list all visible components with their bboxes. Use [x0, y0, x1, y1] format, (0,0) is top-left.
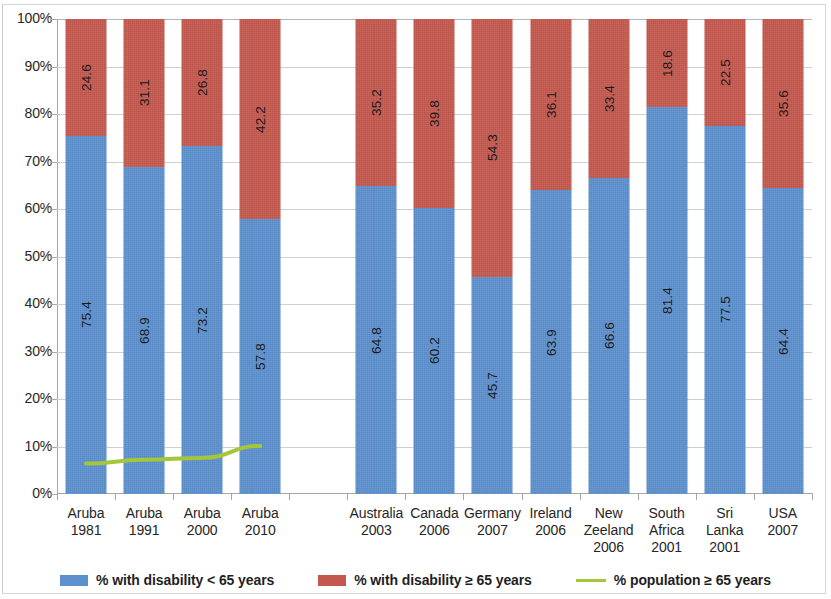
bar-column[interactable]: 26.873.2: [173, 19, 231, 494]
x-axis-category-line: 2007: [463, 522, 521, 539]
y-axis-tick-mark: [51, 114, 57, 115]
bar-column[interactable]: 35.664.4: [754, 19, 812, 494]
y-axis-tick-label: 60%: [4, 200, 52, 216]
x-axis-category-label: Australia2003: [347, 503, 405, 565]
bar-segment-disability-under65[interactable]: 64.8: [356, 186, 397, 494]
bar-segment-disability-under65[interactable]: 64.4: [762, 188, 803, 494]
x-axis-tick: [289, 493, 347, 500]
bar-segment-disability-under65[interactable]: 77.5: [704, 126, 745, 494]
x-axis-tick: [696, 493, 754, 500]
bar-segment-disability-65plus[interactable]: 18.6: [646, 19, 687, 107]
x-axis-category-line: 2010: [231, 522, 289, 539]
bar-value-label: 77.5: [717, 296, 732, 323]
stacked-bar[interactable]: 31.168.9: [124, 19, 165, 494]
bar-segment-disability-under65[interactable]: 60.2: [414, 208, 455, 494]
stacked-bar[interactable]: 26.873.2: [182, 19, 223, 494]
bar-column[interactable]: 36.163.9: [522, 19, 580, 494]
y-axis-tick-label: 70%: [4, 153, 52, 169]
stacked-bar[interactable]: 22.577.5: [704, 19, 745, 494]
bar-column[interactable]: 22.577.5: [696, 19, 754, 494]
y-axis-tick-mark: [51, 209, 57, 210]
bar-segment-disability-65plus[interactable]: 33.4: [588, 19, 629, 178]
y-axis-tick-label: 0%: [4, 485, 52, 501]
bar-column[interactable]: 39.860.2: [405, 19, 463, 494]
y-axis-tick-label: 20%: [4, 390, 52, 406]
bar-column[interactable]: 54.345.7: [463, 19, 521, 494]
bar-column[interactable]: 31.168.9: [115, 19, 173, 494]
bar-segment-disability-under65[interactable]: 75.4: [66, 136, 107, 494]
x-axis-category-label: Aruba1991: [115, 503, 173, 565]
bar-segment-disability-65plus[interactable]: 54.3: [472, 19, 513, 277]
bar-segment-disability-under65[interactable]: 45.7: [472, 277, 513, 494]
bar-column[interactable]: 24.675.4: [57, 19, 115, 494]
y-axis-tick-mark: [51, 352, 57, 353]
bar-segment-disability-65plus[interactable]: 22.5: [704, 19, 745, 126]
bar-value-label: 64.4: [775, 328, 790, 355]
y-axis: 100%90%80%70%60%50%40%30%20%10%0%: [0, 19, 52, 494]
bar-segment-disability-65plus[interactable]: 31.1: [124, 19, 165, 167]
y-axis-tick-mark: [51, 67, 57, 68]
x-axis-tick: [57, 493, 115, 500]
bar-segment-disability-65plus[interactable]: 39.8: [414, 19, 455, 208]
bar-segment-disability-65plus[interactable]: 36.1: [530, 19, 571, 190]
x-axis-category-line: Australia: [347, 505, 405, 522]
x-axis-labels: Aruba1981Aruba1991Aruba2000Aruba2010Aust…: [57, 503, 812, 565]
x-axis-category-line: Africa: [638, 522, 696, 539]
bar-segment-disability-65plus[interactable]: 26.8: [182, 19, 223, 146]
x-axis-category-label: Aruba2010: [231, 503, 289, 565]
bar-segment-disability-65plus[interactable]: 35.2: [356, 19, 397, 186]
bar-value-label: 57.8: [253, 343, 268, 370]
bar-segment-disability-65plus[interactable]: 24.6: [66, 19, 107, 136]
stacked-bar[interactable]: 39.860.2: [414, 19, 455, 494]
x-axis-category-line: Sri Lanka: [696, 505, 754, 539]
bar-segment-disability-under65[interactable]: 68.9: [124, 167, 165, 494]
legend-item[interactable]: % population ≥ 65 years: [576, 572, 771, 588]
bar-segment-disability-65plus[interactable]: 42.2: [240, 19, 281, 219]
bar-segment-disability-under65[interactable]: 81.4: [646, 107, 687, 494]
bar-value-label: 66.6: [601, 322, 616, 349]
stacked-bar[interactable]: 35.264.8: [356, 19, 397, 494]
y-axis-tick-label: 10%: [4, 438, 52, 454]
bar-column[interactable]: 33.466.6: [580, 19, 638, 494]
x-axis-category-label: SouthAfrica2001: [638, 503, 696, 565]
x-axis-category-line: Aruba: [231, 505, 289, 522]
y-axis-tick-mark: [51, 162, 57, 163]
x-axis-category-line: South: [638, 505, 696, 522]
x-axis-category-line: 1981: [57, 522, 115, 539]
bar-value-label: 60.2: [427, 337, 442, 364]
bar-column[interactable]: 18.681.4: [638, 19, 696, 494]
bar-segment-disability-65plus[interactable]: 35.6: [762, 19, 803, 188]
bar-value-label: 36.1: [543, 91, 558, 118]
bar-value-label: 33.4: [601, 85, 616, 112]
stacked-bar[interactable]: 24.675.4: [66, 19, 107, 494]
stacked-bar[interactable]: 36.163.9: [530, 19, 571, 494]
bar-column[interactable]: 35.264.8: [347, 19, 405, 494]
x-axis-category-label: [289, 503, 347, 565]
bar-columns: 24.675.431.168.926.873.242.257.835.264.8…: [57, 19, 812, 494]
bar-value-label: 63.9: [543, 329, 558, 356]
legend-label: % with disability ≥ 65 years: [354, 572, 532, 588]
bar-value-label: 64.8: [369, 327, 384, 354]
bar-column[interactable]: 42.257.8: [231, 19, 289, 494]
x-axis-category-label: Ireland2006: [522, 503, 580, 565]
x-axis-category-label: Sri Lanka2001: [696, 503, 754, 565]
x-axis-tick: [405, 493, 463, 500]
legend-item[interactable]: % with disability ≥ 65 years: [318, 572, 532, 588]
bar-segment-disability-under65[interactable]: 66.6: [588, 178, 629, 494]
stacked-bar[interactable]: 54.345.7: [472, 19, 513, 494]
x-axis-category-line: 2006: [522, 522, 580, 539]
x-axis-category-line: 2003: [347, 522, 405, 539]
stacked-bar[interactable]: 42.257.8: [240, 19, 281, 494]
x-axis-tick: [580, 493, 638, 500]
stacked-bar[interactable]: 18.681.4: [646, 19, 687, 494]
bar-segment-disability-under65[interactable]: 63.9: [530, 190, 571, 494]
bar-segment-disability-under65[interactable]: 57.8: [240, 219, 281, 494]
bar-value-label: 45.7: [485, 372, 500, 399]
legend-item[interactable]: % with disability < 65 years: [60, 572, 274, 588]
x-axis-tick: [638, 493, 696, 500]
bar-value-label: 75.4: [79, 301, 94, 328]
bar-segment-disability-under65[interactable]: 73.2: [182, 146, 223, 494]
x-axis-category-line: 2001: [638, 539, 696, 556]
stacked-bar[interactable]: 33.466.6: [588, 19, 629, 494]
stacked-bar[interactable]: 35.664.4: [762, 19, 803, 494]
